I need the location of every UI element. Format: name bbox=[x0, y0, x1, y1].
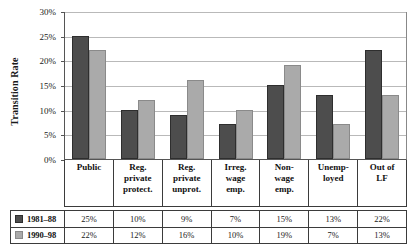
legend-value-cell: 12% bbox=[114, 228, 163, 244]
category-label-line: private bbox=[124, 173, 152, 184]
category-label-cell: Reg.privateunprot. bbox=[163, 160, 212, 206]
bar bbox=[187, 80, 204, 159]
category-label-line: Public bbox=[77, 162, 102, 173]
bar-group bbox=[114, 12, 163, 159]
bar-group bbox=[309, 12, 358, 159]
category-axis-row: PublicReg.privateprotect.Reg.privateunpr… bbox=[64, 160, 407, 207]
category-label-line: emp. bbox=[275, 184, 294, 195]
legend-value-cell: 9% bbox=[163, 211, 212, 227]
y-axis-tick-label: 5% bbox=[44, 130, 56, 140]
legend-value-cell: 7% bbox=[212, 211, 261, 227]
y-axis-tick-label: 25% bbox=[40, 32, 57, 42]
bar-group bbox=[357, 12, 406, 159]
category-label-line: emp. bbox=[226, 184, 245, 195]
category-label-line: unprot. bbox=[172, 184, 201, 195]
y-axis-title-label: Transition Rate bbox=[9, 57, 20, 125]
bar bbox=[382, 95, 399, 159]
bar bbox=[121, 110, 138, 159]
legend-value-cell: 22% bbox=[65, 228, 114, 244]
legend-value-cells: 25%10%9%7%15%13%22% bbox=[65, 211, 406, 227]
legend-value-cell: 13% bbox=[358, 228, 406, 244]
legend-series-label: 1981–88 bbox=[27, 214, 56, 224]
bar-group bbox=[260, 12, 309, 159]
bar bbox=[170, 115, 187, 159]
bar bbox=[333, 124, 350, 159]
legend-data-row: 1981–8825%10%9%7%15%13%22% bbox=[11, 211, 406, 228]
legend-swatch-icon bbox=[15, 231, 23, 239]
bar bbox=[316, 95, 333, 159]
bar bbox=[72, 36, 89, 159]
bar bbox=[284, 65, 301, 159]
legend-value-cell: 25% bbox=[65, 211, 114, 227]
category-label-line: wage bbox=[226, 173, 246, 184]
category-label-line: Irreg. bbox=[224, 162, 246, 173]
bar bbox=[236, 110, 253, 159]
plot-area bbox=[64, 12, 407, 160]
category-label-cell: Unemp-loyed bbox=[309, 160, 358, 206]
bar-group bbox=[162, 12, 211, 159]
category-label-cell: Reg.privateprotect. bbox=[114, 160, 163, 206]
category-label-cell: Out ofLF bbox=[358, 160, 406, 206]
category-label-cell: Non-wageemp. bbox=[260, 160, 309, 206]
bar bbox=[89, 50, 106, 159]
bar bbox=[219, 124, 236, 159]
legend-value-cell: 22% bbox=[358, 211, 406, 227]
category-label-cell: Public bbox=[65, 160, 114, 206]
legend-value-cell: 13% bbox=[309, 211, 358, 227]
legend-value-cell: 16% bbox=[163, 228, 212, 244]
category-label-line: protect. bbox=[123, 184, 153, 195]
legend-series-label: 1990–98 bbox=[27, 230, 56, 240]
legend-value-cells: 22%12%16%10%19%7%13% bbox=[65, 228, 406, 244]
y-axis-tick-label: 15% bbox=[40, 81, 57, 91]
y-axis-tick-label: 0% bbox=[44, 155, 56, 165]
category-label-cell: Irreg.wageemp. bbox=[212, 160, 261, 206]
legend-key: 1981–88 bbox=[11, 211, 65, 227]
category-label-line: Reg. bbox=[129, 162, 146, 173]
legend-data-table: 1981–8825%10%9%7%15%13%22%1990–9822%12%1… bbox=[10, 210, 407, 244]
y-axis-tick-label: 30% bbox=[40, 7, 57, 17]
bars-layer bbox=[65, 12, 406, 159]
legend-key: 1990–98 bbox=[11, 228, 65, 244]
category-label-line: Unemp- bbox=[318, 162, 349, 173]
category-label-line: Reg. bbox=[178, 162, 195, 173]
category-label-line: Non- bbox=[275, 162, 294, 173]
legend-value-cell: 10% bbox=[212, 228, 261, 244]
bar bbox=[365, 50, 382, 159]
legend-value-cell: 10% bbox=[114, 211, 163, 227]
y-axis-tick-label: 10% bbox=[40, 106, 57, 116]
category-label-line: private bbox=[173, 173, 201, 184]
category-label-line: loyed bbox=[323, 173, 344, 184]
bar bbox=[267, 85, 284, 159]
y-axis-tick-label: 20% bbox=[40, 56, 57, 66]
legend-swatch-icon bbox=[15, 215, 23, 223]
transition-rate-bar-chart: Transition Rate 0%5%10%15%20%25%30% Publ… bbox=[0, 0, 413, 252]
legend-data-row: 1990–9822%12%16%10%19%7%13% bbox=[11, 228, 406, 244]
legend-value-cell: 19% bbox=[260, 228, 309, 244]
bar bbox=[138, 100, 155, 159]
y-axis-tick-labels: 0%5%10%15%20%25%30% bbox=[24, 12, 60, 160]
bar-group bbox=[65, 12, 114, 159]
category-label-line: wage bbox=[275, 173, 295, 184]
legend-value-cell: 7% bbox=[309, 228, 358, 244]
y-axis-title: Transition Rate bbox=[4, 26, 24, 156]
category-label-line: Out of bbox=[370, 162, 395, 173]
category-label-line: LF bbox=[376, 173, 388, 184]
bar-group bbox=[211, 12, 260, 159]
legend-value-cell: 15% bbox=[260, 211, 309, 227]
